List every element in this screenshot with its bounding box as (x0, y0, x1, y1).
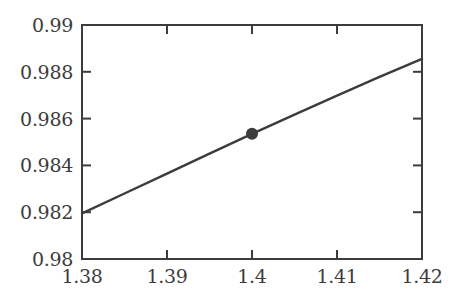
data-point-marker (246, 128, 258, 140)
data-point-dot (246, 128, 258, 140)
y-tick-label: 0.99 (32, 14, 73, 36)
plot-frame (82, 25, 422, 259)
x-tick-label: 1.39 (146, 265, 187, 287)
x-tick-label: 1.4 (237, 265, 266, 287)
chart-figure: 0.980.9820.9840.9860.9880.99 1.381.391.4… (0, 0, 457, 304)
x-tick-label: 1.38 (61, 265, 102, 287)
y-tick-label: 0.982 (20, 201, 73, 223)
y-tick-label: 0.984 (20, 154, 73, 176)
y-tick-label: 0.988 (20, 61, 73, 83)
y-tick-label: 0.986 (20, 108, 73, 130)
x-tick-label: 1.42 (401, 265, 442, 287)
x-tick-label: 1.41 (316, 265, 357, 287)
